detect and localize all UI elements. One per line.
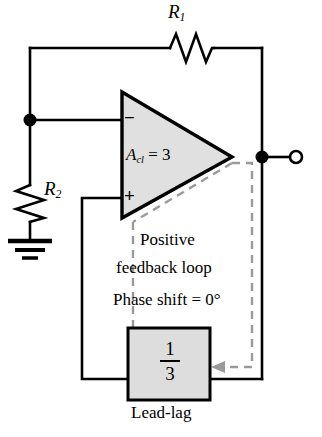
feedback-loop-label-line2: feedback loop: [116, 259, 212, 276]
leadlag-attenuation-fraction: 1 3: [160, 339, 180, 383]
fraction-denominator: 3: [160, 364, 180, 383]
junction-dot-output: [256, 151, 269, 164]
ground-icon: [8, 241, 52, 258]
wire-noninverting-feedback: [82, 198, 128, 379]
output-terminal-icon: [290, 151, 302, 163]
resistor-r1-label: R1: [168, 2, 186, 24]
fraction-bar: [160, 360, 180, 362]
leadlag-caption: Lead-lag: [131, 404, 191, 421]
resistor-r2-zigzag: [16, 185, 44, 222]
junction-dot-inverting: [24, 114, 37, 127]
opamp-inverting-pin-label: −: [124, 108, 135, 127]
feedback-arrowhead-icon: [211, 361, 225, 373]
feedback-loop-label-line1: Positive: [140, 231, 195, 248]
resistor-r2-label: R2: [44, 179, 62, 201]
opamp-gain-label: Acl = 3: [126, 146, 171, 165]
resistor-r1-zigzag: [170, 34, 214, 62]
circuit-diagram: R1 R2 Acl = 3 − + Positive feedback loop…: [0, 0, 322, 437]
phase-shift-label: Phase shift = 0°: [113, 291, 221, 308]
opamp-noninverting-pin-label: +: [124, 186, 135, 205]
fraction-numerator: 1: [160, 339, 180, 358]
